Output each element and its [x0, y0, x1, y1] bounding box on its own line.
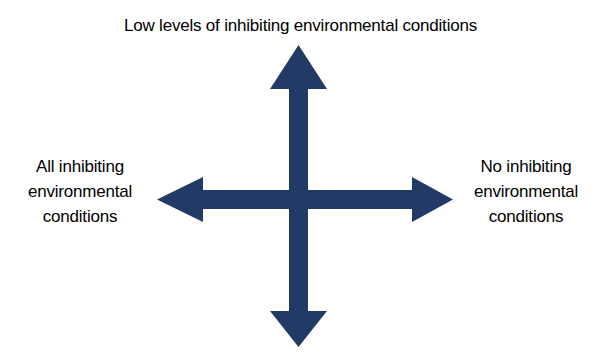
axis-label-top: Low levels of inhibiting environmental c… — [0, 14, 601, 38]
diagram-canvas: Low levels of inhibiting environmental c… — [0, 0, 601, 356]
up-arrowhead-icon — [270, 45, 327, 89]
down-arrowhead-icon — [270, 311, 327, 347]
horizontal-shaft — [196, 190, 419, 209]
axis-label-right: No inhibiting environmental conditions — [452, 154, 600, 229]
axis-label-left: All inhibiting environmental conditions — [4, 154, 156, 229]
right-arrowhead-icon — [412, 177, 453, 222]
left-arrowhead-icon — [157, 177, 203, 222]
